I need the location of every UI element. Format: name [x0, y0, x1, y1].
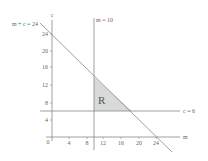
- linear-programming-diagram: 4 8 12 16 20 24 4 8 12 16 20 24 0 c m m …: [0, 0, 208, 161]
- m-axis-label: m: [183, 134, 188, 140]
- label-m-plus-c-24: m + c = 24: [12, 21, 38, 27]
- c-tick-20: 20: [42, 48, 48, 54]
- label-c-6: c = 6: [183, 108, 195, 114]
- label-m-10: m = 10: [96, 17, 113, 23]
- region-r-label: R: [98, 94, 106, 106]
- m-tick-20: 20: [136, 140, 142, 146]
- m-tick-12: 12: [100, 140, 106, 146]
- line-m-plus-c-24: [40, 23, 172, 152]
- m-tick-4: 4: [68, 140, 71, 146]
- m-tick-8: 8: [86, 140, 89, 146]
- c-tick-12: 12: [42, 82, 48, 88]
- origin-label: 0: [47, 139, 50, 145]
- m-tick-24: 24: [153, 140, 159, 146]
- m-tick-16: 16: [118, 140, 124, 146]
- c-tick-4: 4: [45, 117, 48, 123]
- c-tick-24: 24: [42, 31, 48, 37]
- c-axis-label: c: [51, 12, 54, 18]
- c-tick-16: 16: [42, 64, 48, 70]
- c-tick-8: 8: [45, 100, 48, 106]
